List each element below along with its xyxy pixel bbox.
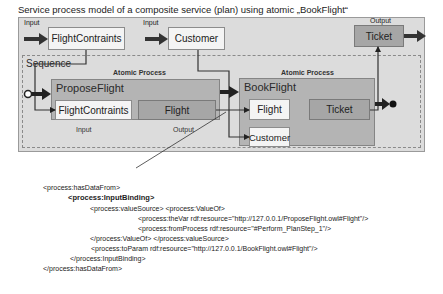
- code-line-valuesource-close: </process:ValueOf> </process:valueSource…: [90, 234, 229, 244]
- code-line-hasdatafrom-close: </process:hasDataFrom>: [43, 264, 122, 274]
- start-circle-icon: [25, 91, 32, 98]
- code-line-hasdatafrom-open: <process:hasDataFrom>: [43, 183, 120, 193]
- code-line-thevar: <process:theVar rdf:resource="http://127…: [138, 214, 368, 224]
- code-line-fromprocess: <process:fromProcess rdf:resource="#Perf…: [138, 224, 331, 234]
- thick-arrow-icon-input-2: [145, 33, 168, 45]
- code-line-valuesource-open: <process:valueSource> <process:ValueOf>: [90, 204, 225, 214]
- code-line-inputbinding-open: <process:InputBinding>: [68, 193, 154, 203]
- thick-arrow-icon-input-1: [24, 33, 48, 45]
- end-circle-icon: [390, 101, 397, 108]
- thick-arrow-icon-output: [404, 30, 426, 42]
- code-line-toparam: <process:toParam rdf:resource="http://12…: [91, 244, 318, 254]
- code-line-inputbinding-close: </process:InputBinding>: [70, 254, 146, 264]
